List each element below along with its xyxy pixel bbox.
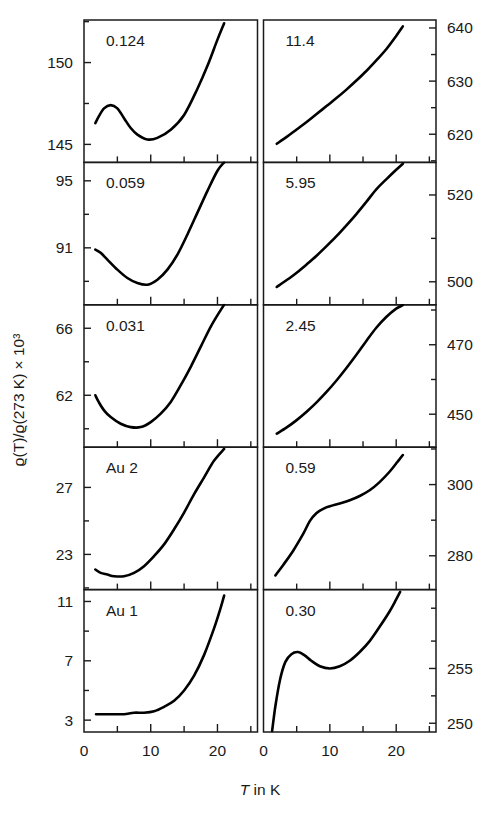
y-tick-label: 66 <box>56 320 73 337</box>
panel-label: Au 2 <box>106 459 138 476</box>
y-tick-label: 520 <box>447 186 473 203</box>
panel-0.30: 0.30 <box>264 590 437 732</box>
y-tick-label: 3 <box>64 712 73 729</box>
y-tick-label: 95 <box>56 172 73 189</box>
y-tick-label: 640 <box>447 19 473 36</box>
y-tick-label: 7 <box>64 652 73 669</box>
y-tick-label: 150 <box>47 54 73 71</box>
x-tick-label: 20 <box>388 742 406 759</box>
y-tick-label: 630 <box>447 73 473 90</box>
panel-label: 0.031 <box>106 317 145 334</box>
y-tick-label: 11 <box>57 593 73 610</box>
x-tick-label: 0 <box>259 742 268 759</box>
panel-label: 0.30 <box>286 602 317 619</box>
panel-label: Au 1 <box>106 602 138 619</box>
x-axis-title: T in K <box>240 781 281 798</box>
figure-panel-grid: 0.1240.0590.031Au 2Au 111.45.952.450.590… <box>0 0 493 822</box>
panel-0.59: 0.59 <box>264 447 437 589</box>
y-tick-label: 500 <box>447 273 473 290</box>
panel-0.124: 0.124 <box>84 20 258 162</box>
multi-panel-resistivity-chart: 0.1240.0590.031Au 2Au 111.45.952.450.590… <box>0 0 493 822</box>
y-tick-label: 470 <box>447 336 473 353</box>
x-tick-label: 10 <box>142 742 160 759</box>
panel-5.95: 5.95 <box>264 162 437 304</box>
panel-label: 0.059 <box>106 174 145 191</box>
y-tick-label: 300 <box>447 476 473 493</box>
panel-au-2: Au 2 <box>84 447 258 589</box>
panel-label: 5.95 <box>286 174 316 191</box>
panels-layer: 0.1240.0590.031Au 2Au 111.45.952.450.590… <box>84 20 436 732</box>
y-tick-label: 145 <box>47 136 73 153</box>
x-tick-label: 0 <box>80 742 89 759</box>
panel-11.4: 11.4 <box>264 20 437 162</box>
x-tick-label: 10 <box>321 742 339 759</box>
y-tick-label: 91 <box>56 239 73 256</box>
x-tick-label: 20 <box>209 742 227 759</box>
panel-0.059: 0.059 <box>84 162 258 304</box>
y-tick-label: 280 <box>447 547 473 564</box>
panel-label: 11.4 <box>286 32 315 49</box>
axis-labels-layer: 1451509195626623273711620630640500520450… <box>47 19 473 759</box>
panel-2.45: 2.45 <box>264 305 437 447</box>
y-axis-title: ϱ(T)/ϱ(273 K) × 10³ <box>10 334 27 467</box>
y-tick-label: 450 <box>447 406 473 423</box>
panel-label: 2.45 <box>286 317 316 334</box>
y-tick-label: 255 <box>447 660 473 677</box>
panel-label: 0.59 <box>286 459 316 476</box>
y-tick-label: 62 <box>56 387 73 404</box>
y-tick-label: 27 <box>56 479 73 496</box>
panel-au-1: Au 1 <box>84 590 258 732</box>
y-tick-label: 250 <box>447 715 473 732</box>
y-tick-label: 620 <box>447 126 473 143</box>
panel-label: 0.124 <box>106 32 145 49</box>
panel-0.031: 0.031 <box>84 305 258 447</box>
y-tick-label: 23 <box>56 546 73 563</box>
